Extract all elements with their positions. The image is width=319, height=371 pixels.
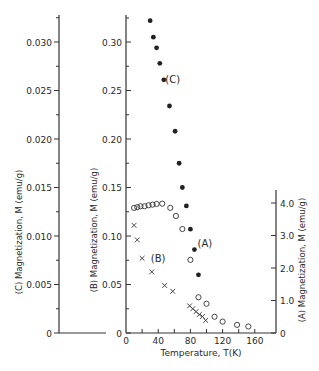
data-point bbox=[154, 45, 159, 50]
a-tick-label: 0 bbox=[280, 329, 286, 339]
series-annotation: (C) bbox=[165, 74, 180, 85]
data-point bbox=[135, 205, 140, 210]
data-point bbox=[204, 301, 209, 306]
data-point bbox=[196, 295, 201, 300]
c-tick-label: 0.010 bbox=[26, 232, 52, 242]
data-point bbox=[184, 204, 189, 209]
data-point bbox=[220, 319, 225, 324]
b-tick-label: 0.05 bbox=[102, 280, 122, 290]
data-point bbox=[212, 314, 217, 319]
series-annotation: (A) bbox=[198, 238, 213, 249]
c-axis-label: (C) Magnetization, M (emu/g) bbox=[14, 170, 24, 295]
data-point bbox=[188, 227, 193, 232]
data-point bbox=[246, 324, 251, 329]
data-point bbox=[170, 289, 175, 294]
b-tick-label: 0.15 bbox=[102, 183, 122, 193]
data-point bbox=[157, 61, 162, 66]
x-tick-label: 0 bbox=[123, 336, 129, 346]
data-point bbox=[203, 318, 208, 323]
data-point bbox=[135, 237, 140, 242]
data-point bbox=[173, 129, 178, 134]
data-point bbox=[180, 185, 185, 190]
x-tick-label: 80 bbox=[185, 336, 197, 346]
b-tick-label: 0.25 bbox=[102, 86, 122, 96]
a-tick-label: 1.0 bbox=[280, 296, 295, 306]
x-tick-label: 160 bbox=[246, 336, 263, 346]
b-tick-label: 0.30 bbox=[102, 38, 122, 48]
axis-a: 01.02.03.04.0 bbox=[271, 190, 295, 339]
data-point bbox=[160, 201, 165, 206]
c-tick-label: 0 bbox=[46, 329, 52, 339]
data-point bbox=[151, 35, 156, 40]
data-point bbox=[196, 272, 201, 277]
data-point bbox=[234, 322, 239, 327]
data-point bbox=[148, 18, 153, 23]
data-point bbox=[192, 247, 197, 252]
b-tick-label: 0.20 bbox=[102, 135, 122, 145]
x-axis: 04080120160Temperature, T(K) bbox=[123, 329, 276, 358]
magnetization-chart: 00.0050.0100.0150.0200.0250.030 00.050.1… bbox=[0, 0, 319, 371]
data-point bbox=[180, 226, 185, 231]
data-point bbox=[167, 104, 172, 109]
c-tick-label: 0.030 bbox=[26, 38, 52, 48]
data-point bbox=[149, 269, 154, 274]
data-point bbox=[132, 223, 137, 228]
axis-b: 00.050.100.150.200.250.30 bbox=[102, 15, 131, 339]
c-tick-label: 0.025 bbox=[26, 86, 52, 96]
x-tick-label: 120 bbox=[214, 336, 231, 346]
x-axis-label: Temperature, T(K) bbox=[159, 348, 241, 358]
data-point bbox=[177, 161, 182, 166]
c-tick-label: 0.020 bbox=[26, 135, 52, 145]
c-tick-label: 0.015 bbox=[26, 183, 52, 193]
series-c bbox=[148, 18, 201, 277]
x-tick-label: 40 bbox=[152, 336, 164, 346]
a-tick-label: 2.0 bbox=[280, 264, 295, 274]
data-point bbox=[140, 256, 145, 261]
a-axis-label: (A) Magnetization, M (emu/g) bbox=[297, 198, 307, 323]
a-tick-label: 3.0 bbox=[280, 231, 295, 241]
data-point bbox=[188, 257, 193, 262]
data-point bbox=[168, 205, 173, 210]
a-tick-label: 4.0 bbox=[280, 199, 295, 209]
b-axis-label: (B) Magnetization, M (emu/g) bbox=[89, 168, 99, 293]
c-tick-label: 0.005 bbox=[26, 280, 52, 290]
plot-area: (C)(A)(B) bbox=[131, 18, 251, 329]
axis-labels: (C) Magnetization, M (emu/g)(B) Magnetiz… bbox=[14, 168, 307, 323]
series-annotation: (B) bbox=[151, 253, 166, 264]
b-tick-label: 0 bbox=[116, 329, 122, 339]
data-point bbox=[173, 213, 178, 218]
data-point bbox=[162, 283, 167, 288]
b-tick-label: 0.10 bbox=[102, 232, 122, 242]
